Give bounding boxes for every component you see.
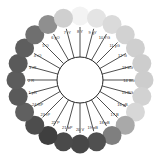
hue-swatch bbox=[54, 9, 73, 28]
hue-label: 17 B bbox=[111, 112, 120, 117]
hue-label: 22 P bbox=[51, 120, 60, 125]
hue-label: 20 V bbox=[76, 127, 85, 132]
hue-label: 24 RP bbox=[32, 102, 43, 107]
hue-label: 23 rP bbox=[41, 112, 51, 117]
hue-label: 10 YG bbox=[99, 35, 110, 40]
hue-label: 13 bG bbox=[122, 65, 133, 70]
hue-label: 14 BG bbox=[123, 78, 134, 83]
hue-label: 19 pB bbox=[87, 125, 98, 130]
center-circle bbox=[57, 57, 103, 103]
hue-label: 3 rR bbox=[29, 65, 37, 70]
hue-swatch bbox=[71, 135, 90, 154]
hue-label: 4 rO bbox=[34, 53, 42, 58]
hue-label: 15 BG bbox=[122, 90, 133, 95]
hue-label: 9 gY bbox=[89, 30, 98, 35]
hue-label: 6 yO bbox=[51, 35, 59, 40]
hue-label: 7 rY bbox=[64, 30, 72, 35]
color-circle-diagram: 8 Y9 gY10 YG11 yG12 G13 bG14 BG15 BG16 g… bbox=[0, 0, 160, 163]
hue-swatch bbox=[9, 87, 28, 106]
hue-swatch bbox=[7, 71, 26, 90]
hue-label: 12 G bbox=[118, 53, 127, 58]
hue-label: 2 R bbox=[28, 78, 34, 83]
hue-swatch bbox=[87, 132, 106, 151]
hue-label: 21 bP bbox=[62, 125, 73, 130]
hue-label: 8 Y bbox=[77, 29, 83, 34]
hue-swatch bbox=[135, 71, 154, 90]
hue-label: 11 yG bbox=[109, 43, 119, 48]
hue-swatch bbox=[132, 54, 151, 73]
hue-swatch bbox=[71, 7, 90, 26]
hue-label: 5 O bbox=[42, 43, 48, 48]
hue-label: 1 pR bbox=[28, 90, 37, 95]
hue-label: 16 gB bbox=[117, 102, 128, 107]
hue-label: 18 pB bbox=[99, 120, 110, 125]
